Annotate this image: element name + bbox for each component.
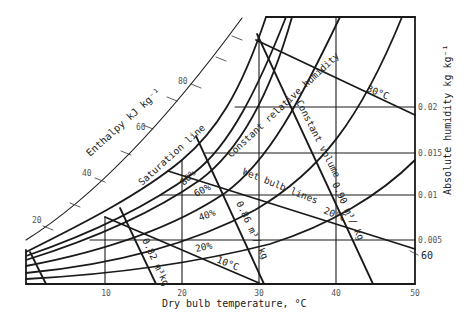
svg-text:40: 40 [331,289,341,298]
y-tick-labels: 0.02 0.015 0.01 0.005 [418,103,442,245]
saturation-line-label: Saturation line [136,122,207,188]
svg-text:0.02: 0.02 [418,103,437,112]
svg-text:0.015: 0.015 [418,149,442,158]
x-axis-title: Dry bulb temperature, °C [162,298,307,309]
rh-20-label: 20% [194,240,213,254]
svg-text:30: 30 [254,289,264,298]
svg-text:0.01: 0.01 [418,191,437,200]
svg-text:40: 40 [82,169,92,178]
svg-text:10: 10 [101,289,111,298]
y-axis-title: Absolute humidity kg kg⁻¹ [442,44,453,195]
enthalpy-axis-title: Enthalpy kJ kg⁻¹ [84,86,163,159]
svg-text:0.005: 0.005 [418,236,442,245]
dry-bulb-gridlines [105,17,336,284]
wet-bulb-30-label: 30°C [365,83,390,102]
enthalpy-scale [26,18,242,240]
svg-text:80: 80 [178,77,188,86]
svg-text:20: 20 [177,289,187,298]
enthalpy-extra-label: 60 [421,250,433,261]
svg-text:20: 20 [32,216,42,225]
svg-text:50: 50 [410,289,420,298]
wet-bulb-lines [30,40,415,284]
saturation-curve [26,17,266,252]
x-tick-labels: 10 20 30 40 50 [101,289,420,298]
psychrometric-chart: 10 20 30 40 50 0.02 0.015 0.01 0.005 60 … [0,0,476,319]
svg-text:60: 60 [136,123,146,132]
